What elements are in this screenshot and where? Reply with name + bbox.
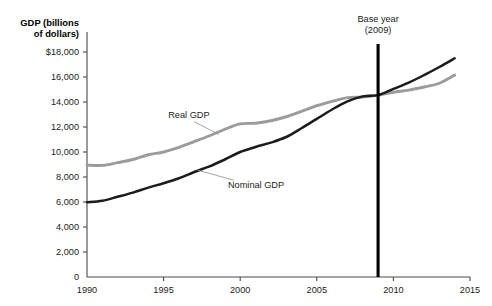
series-label-nominal-gdp: Nominal GDP bbox=[228, 180, 284, 190]
x-tick-label: 2005 bbox=[307, 285, 327, 295]
base-year-label-line2: (2009) bbox=[365, 25, 392, 35]
y-tick-label: 12,000 bbox=[51, 122, 79, 132]
y-tick-label: 6,000 bbox=[56, 197, 79, 207]
y-axis-title-line2: of dollars) bbox=[34, 28, 79, 39]
y-tick-label: 8,000 bbox=[56, 172, 79, 182]
chart-canvas: 02,0004,0006,0008,00010,00012,00014,0001… bbox=[0, 0, 492, 306]
base-year-label-line1: Base year bbox=[357, 14, 398, 24]
y-tick-label: 14,000 bbox=[51, 97, 79, 107]
gdp-chart: 02,0004,0006,0008,00010,00012,00014,0001… bbox=[0, 0, 492, 306]
x-tick-label: 1995 bbox=[153, 285, 173, 295]
series-label-real-gdp: Real GDP bbox=[168, 110, 209, 120]
leader-line-nominal-gdp bbox=[197, 170, 234, 180]
x-tick-label: 2000 bbox=[230, 285, 250, 295]
y-tick-label: $18,000 bbox=[46, 47, 79, 57]
x-tick-label: 2010 bbox=[383, 285, 403, 295]
y-tick-label: 2,000 bbox=[56, 247, 79, 257]
x-tick-label: 1990 bbox=[77, 285, 97, 295]
leader-line-real-gdp bbox=[194, 122, 219, 135]
x-tick-label: 2015 bbox=[460, 285, 480, 295]
y-tick-label: 4,000 bbox=[56, 222, 79, 232]
y-tick-label: 10,000 bbox=[51, 147, 79, 157]
y-tick-label: 0 bbox=[74, 272, 79, 282]
series-line-real-gdp bbox=[87, 75, 455, 165]
y-tick-label: 16,000 bbox=[51, 72, 79, 82]
y-axis-title-line1: GDP (billions bbox=[20, 17, 79, 28]
